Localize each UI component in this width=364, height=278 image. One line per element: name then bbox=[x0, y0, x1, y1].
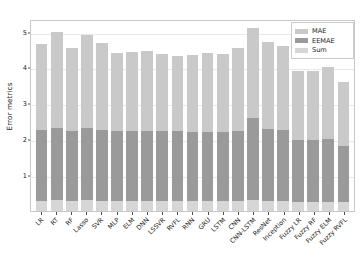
x-axis-tick-label: RNN bbox=[182, 216, 197, 231]
legend-label-sum: Sum bbox=[312, 46, 327, 54]
bar-segment-eemae bbox=[96, 130, 108, 201]
bar-stack bbox=[66, 48, 78, 211]
x-axis-tick-slot: Lasso bbox=[79, 212, 94, 278]
bar-segment-mae bbox=[247, 28, 259, 118]
bar-segment-eemae bbox=[187, 132, 199, 201]
bar-resnet[interactable] bbox=[260, 21, 275, 211]
bar-stack bbox=[111, 53, 123, 211]
x-axis-tick-slot: SVR bbox=[94, 212, 109, 278]
bar-segment-mae bbox=[51, 32, 63, 129]
x-axis-tick-labels: LRRTRFLassoSVRMLPELMDNNLSSVRRVFLRNNGRULS… bbox=[30, 212, 355, 278]
x-axis-tick-slot: Fuzzy RF bbox=[306, 212, 321, 278]
x-axis-tickmark bbox=[147, 212, 148, 215]
x-axis-tick-slot: Fuzzy RVFL bbox=[337, 212, 352, 278]
bar-segment-mae bbox=[322, 67, 334, 139]
bar-lasso[interactable] bbox=[79, 21, 94, 211]
bar-cnn[interactable] bbox=[230, 21, 245, 211]
bar-segment-sum bbox=[202, 201, 214, 211]
legend-item-mae[interactable]: MAE bbox=[295, 27, 349, 36]
legend-item-eemae[interactable]: EEMAE bbox=[295, 36, 349, 45]
bar-segment-mae bbox=[338, 82, 350, 147]
bar-segment-sum bbox=[187, 201, 199, 211]
bar-segment-eemae bbox=[232, 131, 244, 201]
bar-segment-sum bbox=[292, 202, 304, 211]
bar-lstm[interactable] bbox=[215, 21, 230, 211]
x-axis-tick-label: LR bbox=[34, 216, 45, 227]
bar-segment-eemae bbox=[262, 129, 274, 201]
x-axis-tickmark bbox=[71, 212, 72, 215]
bar-lssvr[interactable] bbox=[155, 21, 170, 211]
bar-segment-mae bbox=[141, 51, 153, 131]
bar-stack bbox=[292, 71, 304, 211]
bar-elm[interactable] bbox=[125, 21, 140, 211]
bar-segment-eemae bbox=[217, 132, 229, 201]
bar-segment-sum bbox=[232, 201, 244, 211]
bar-stack bbox=[202, 53, 214, 211]
bar-svr[interactable] bbox=[94, 21, 109, 211]
bar-lr[interactable] bbox=[34, 21, 49, 211]
legend-item-sum[interactable]: Sum bbox=[295, 46, 349, 55]
bar-segment-sum bbox=[322, 202, 334, 211]
bar-gru[interactable] bbox=[200, 21, 215, 211]
bar-segment-mae bbox=[36, 44, 48, 130]
bar-inception[interactable] bbox=[276, 21, 291, 211]
bar-segment-sum bbox=[141, 201, 153, 211]
bar-segment-eemae bbox=[322, 139, 334, 201]
x-axis-tick-slot: LSSVR bbox=[155, 212, 170, 278]
bar-rt[interactable] bbox=[49, 21, 64, 211]
bar-mlp[interactable] bbox=[109, 21, 124, 211]
x-axis-tickmark bbox=[56, 212, 57, 215]
x-axis-tickmark bbox=[223, 212, 224, 215]
bar-segment-mae bbox=[187, 55, 199, 132]
y-axis-tick-4: 4 bbox=[23, 64, 27, 72]
bar-segment-mae bbox=[262, 42, 274, 129]
x-axis-tickmark bbox=[253, 212, 254, 215]
x-axis-tickmark bbox=[238, 212, 239, 215]
x-axis-tickmark bbox=[86, 212, 87, 215]
bar-rnn[interactable] bbox=[185, 21, 200, 211]
x-axis-tickmark bbox=[344, 212, 345, 215]
bar-segment-eemae bbox=[141, 131, 153, 201]
bar-rvfl[interactable] bbox=[170, 21, 185, 211]
bar-segment-eemae bbox=[292, 140, 304, 202]
bar-stack bbox=[81, 35, 93, 211]
x-axis-tick-slot: LSTM bbox=[215, 212, 230, 278]
bar-stack bbox=[156, 54, 168, 211]
chart-figure: Error metrics 12345 LRRTRFLassoSVRMLPELM… bbox=[0, 0, 364, 278]
x-axis-tick-slot: GRU bbox=[200, 212, 215, 278]
bar-segment-sum bbox=[66, 201, 78, 211]
bar-segment-eemae bbox=[66, 131, 78, 201]
bar-stack bbox=[338, 82, 350, 211]
bar-segment-mae bbox=[172, 56, 184, 131]
bar-segment-eemae bbox=[307, 140, 319, 202]
bar-segment-eemae bbox=[247, 118, 259, 201]
bar-segment-mae bbox=[202, 53, 214, 132]
bar-cnn-lstm[interactable] bbox=[245, 21, 260, 211]
x-axis-tickmark bbox=[162, 212, 163, 215]
x-axis-tickmark bbox=[284, 212, 285, 215]
x-axis-tick-slot: CNN bbox=[230, 212, 245, 278]
x-axis-tick-slot: ResNet bbox=[261, 212, 276, 278]
x-axis-tick-slot: RF bbox=[63, 212, 78, 278]
bar-rf[interactable] bbox=[64, 21, 79, 211]
bar-stack bbox=[126, 52, 138, 211]
bar-segment-sum bbox=[111, 201, 123, 211]
x-axis-tick-label: ELM bbox=[122, 216, 137, 231]
bar-stack bbox=[262, 42, 274, 211]
x-axis-tickmark bbox=[132, 212, 133, 215]
x-axis-tick-slot: ELM bbox=[124, 212, 139, 278]
bar-segment-eemae bbox=[338, 146, 350, 202]
x-axis-tick-label: MLP bbox=[107, 216, 121, 230]
x-axis-tick-slot: RT bbox=[48, 212, 63, 278]
bar-segment-sum bbox=[307, 202, 319, 211]
x-axis-tickmark bbox=[192, 212, 193, 215]
bar-stack bbox=[36, 44, 48, 211]
bar-segment-mae bbox=[156, 54, 168, 131]
bar-stack bbox=[187, 55, 199, 211]
bar-stack bbox=[322, 67, 334, 211]
x-axis-tickmark bbox=[268, 212, 269, 215]
bar-segment-mae bbox=[277, 46, 289, 130]
y-axis-tick-labels: 12345 bbox=[14, 20, 30, 212]
bar-dnn[interactable] bbox=[140, 21, 155, 211]
x-axis-tickmark bbox=[208, 212, 209, 215]
